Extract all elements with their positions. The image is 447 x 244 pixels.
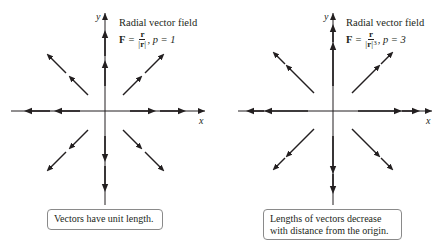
formula-lhs: F xyxy=(119,34,125,46)
panel-unit-field: y x Radial vector field F = r |r| , p = … xyxy=(0,0,220,244)
field-formula: F = r |r|3 , p = 3 xyxy=(346,30,406,49)
vector-field-plot-p1 xyxy=(0,0,220,244)
formula-fraction: r |r| xyxy=(138,30,146,49)
formula-fraction: r |r|3 xyxy=(365,30,376,49)
caption-line-1: Vectors have unit length. xyxy=(54,213,156,225)
formula-equals: = xyxy=(128,34,134,46)
y-axis-arrowhead-icon xyxy=(102,13,108,20)
fraction-denominator: |r|3 xyxy=(365,40,376,49)
x-axis-arrowhead-icon xyxy=(425,108,432,114)
y-axis-arrowhead-icon xyxy=(330,13,336,20)
fraction-denominator: |r| xyxy=(138,40,146,49)
field-title: Radial vector field xyxy=(119,17,197,29)
x-axis-label: x xyxy=(199,116,203,126)
field-formula: F = r |r| , p = 1 xyxy=(119,30,176,49)
x-axis-arrowhead-icon xyxy=(198,108,205,114)
field-title: Radial vector field xyxy=(346,17,424,29)
caption-box: Lengths of vectors decrease with distanc… xyxy=(263,209,402,240)
axes xyxy=(11,13,205,205)
y-axis-label: y xyxy=(324,12,328,22)
x-axis-label: x xyxy=(426,116,430,126)
vector-field-plot-p3 xyxy=(228,0,447,244)
caption-line-2: with distance from the origin. xyxy=(270,225,395,237)
caption-box: Vectors have unit length. xyxy=(47,209,163,230)
y-axis-label: y xyxy=(96,12,100,22)
panel-inverse-square-field: y x Radial vector field F = r |r|3 , p =… xyxy=(228,0,447,244)
caption-line-1: Lengths of vectors decrease xyxy=(270,213,395,225)
formula-p-value: , p = 3 xyxy=(378,34,406,46)
formula-p-value: , p = 1 xyxy=(147,34,175,46)
formula-equals: = xyxy=(355,34,361,46)
formula-lhs: F xyxy=(346,34,352,46)
